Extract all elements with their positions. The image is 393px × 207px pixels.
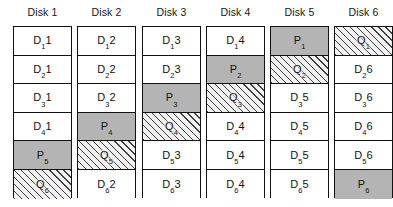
disk-block-qparity: Q4 [143,113,200,142]
disk-block-data: D11 [14,27,71,56]
block-base-symbol: Q [36,178,45,190]
disk-column-6: Disk 6Q1D26D36D46D56P6 [334,0,393,207]
disk-stripe-stack: D13D23P3Q4D53D63 [142,26,201,198]
disk-block-label: Q4 [165,121,178,132]
block-subscript: 4 [362,128,366,137]
disk-block-qparity: Q6 [14,170,71,199]
disk-block-data: D53 [143,141,200,170]
disk-block-parity: P4 [78,113,135,142]
block-disk-suffix: 4 [239,178,245,190]
disk-block-data: D23 [143,56,200,85]
disk-block-label: D54 [226,150,244,161]
block-subscript: 5 [44,157,48,166]
disk-header-label: Disk 6 [334,5,393,19]
block-subscript: 2 [105,71,109,80]
disk-block-data: D14 [207,27,264,56]
block-subscript: 1 [105,42,109,51]
block-disk-suffix: 5 [303,149,309,161]
disk-header-label: Disk 3 [142,5,201,19]
disk-block-label: P3 [166,92,178,103]
block-disk-suffix: 1 [46,91,52,103]
disk-block-data: D63 [143,170,200,199]
disk-block-label: D62 [97,179,115,190]
block-subscript: 1 [170,42,174,51]
disk-column-1: Disk 1D11D21D31D41P5Q6 [13,0,72,207]
block-base-symbol: Q [293,63,302,75]
disk-stripe-stack: D12D22D32P4Q5D62 [77,26,136,198]
disk-block-data: D54 [207,141,264,170]
block-disk-suffix: 6 [367,91,373,103]
block-base-symbol: P [166,91,173,103]
disk-block-label: D41 [33,121,51,132]
disk-block-qparity: Q1 [335,27,392,56]
disk-block-label: D32 [97,92,115,103]
block-base-symbol: P [37,149,44,161]
disk-block-label: D63 [162,179,180,190]
block-disk-suffix: 6 [367,63,373,75]
disk-block-label: D12 [97,35,115,46]
block-disk-suffix: 6 [367,149,373,161]
block-subscript: 1 [234,42,238,51]
disk-block-data: D26 [335,56,392,85]
disk-block-data: D46 [335,113,392,142]
disk-block-label: Q1 [357,35,370,46]
disk-block-label: D22 [97,64,115,75]
disk-block-label: D35 [290,92,308,103]
block-subscript: 6 [45,186,49,195]
disk-block-label: P1 [294,35,306,46]
disk-block-label: D44 [226,121,244,132]
block-base-symbol: Q [357,34,366,46]
block-subscript: 5 [362,157,366,166]
disk-block-label: D13 [162,35,180,46]
block-subscript: 5 [298,157,302,166]
disk-block-data: D12 [78,27,135,56]
block-disk-suffix: 3 [175,149,181,161]
disk-column-4: Disk 4D14P2Q3D44D54D64 [206,0,265,207]
block-subscript: 3 [362,100,366,109]
block-subscript: 6 [298,186,302,195]
disk-block-data: D32 [78,84,135,113]
disk-block-label: D21 [33,64,51,75]
disk-block-data: D36 [335,84,392,113]
block-disk-suffix: 6 [367,120,373,132]
block-subscript: 2 [41,71,45,80]
disk-block-label: D53 [162,150,180,161]
disk-block-label: D11 [33,35,51,46]
block-disk-suffix: 1 [46,63,52,75]
disk-block-data: D65 [271,170,328,199]
disk-column-3: Disk 3D13D23P3Q4D53D63 [142,0,201,207]
block-disk-suffix: 1 [46,34,52,46]
disk-header-label: Disk 4 [206,5,265,19]
disk-block-label: D23 [162,64,180,75]
block-subscript: 4 [41,128,45,137]
block-disk-suffix: 5 [303,178,309,190]
block-subscript: 6 [234,186,238,195]
block-disk-suffix: 3 [175,63,181,75]
disk-block-data: D45 [271,113,328,142]
block-disk-suffix: 4 [239,120,245,132]
disk-block-data: D22 [78,56,135,85]
block-subscript: 1 [41,42,45,51]
block-subscript: 3 [238,100,242,109]
disk-block-data: D35 [271,84,328,113]
block-subscript: 1 [366,42,370,51]
block-subscript: 5 [109,157,113,166]
disk-block-label: D14 [226,35,244,46]
block-disk-suffix: 2 [110,34,116,46]
disk-block-parity: P3 [143,84,200,113]
block-subscript: 2 [362,71,366,80]
disk-block-data: D31 [14,84,71,113]
disk-block-label: P2 [230,64,242,75]
disk-block-parity: P1 [271,27,328,56]
disk-block-label: D56 [354,150,372,161]
block-base-symbol: Q [100,149,109,161]
disk-block-data: D56 [335,141,392,170]
block-subscript: 4 [108,128,112,137]
block-subscript: 4 [234,128,238,137]
block-subscript: 6 [365,186,369,195]
disk-header-label: Disk 2 [77,5,136,19]
disk-block-label: D65 [290,179,308,190]
block-base-symbol: P [230,63,237,75]
disk-block-label: Q2 [293,64,306,75]
block-base-symbol: P [101,120,108,132]
